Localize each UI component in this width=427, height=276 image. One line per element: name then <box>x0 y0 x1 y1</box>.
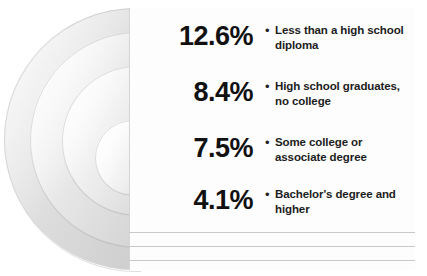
category-label: High school graduates, no college <box>275 79 415 108</box>
category-label: Less than a high school diploma <box>275 23 415 52</box>
bullet-icon: • <box>265 135 275 164</box>
data-row: 12.6% • Less than a high school diploma <box>129 18 415 54</box>
percent-value: 8.4% <box>129 74 265 110</box>
percent-value: 4.1% <box>129 182 265 218</box>
data-row: 8.4% • High school graduates, no college <box>129 74 415 110</box>
data-row: 4.1% • Bachelor's degree and higher <box>129 182 415 218</box>
percent-value: 7.5% <box>129 130 265 166</box>
infographic-canvas: 12.6% • Less than a high school diploma … <box>0 0 427 276</box>
bullet-icon: • <box>265 79 275 108</box>
label-group: • Less than a high school diploma <box>265 18 415 52</box>
category-label: Some college or associate degree <box>275 135 415 164</box>
category-label: Bachelor's degree and higher <box>275 187 415 216</box>
data-rows: 12.6% • Less than a high school diploma … <box>129 8 415 270</box>
percent-value: 12.6% <box>129 18 265 54</box>
bullet-icon: • <box>265 187 275 216</box>
data-row: 7.5% • Some college or associate degree <box>129 130 415 166</box>
label-group: • Bachelor's degree and higher <box>265 182 415 216</box>
bullet-icon: • <box>265 23 275 52</box>
label-group: • High school graduates, no college <box>265 74 415 108</box>
label-group: • Some college or associate degree <box>265 130 415 164</box>
